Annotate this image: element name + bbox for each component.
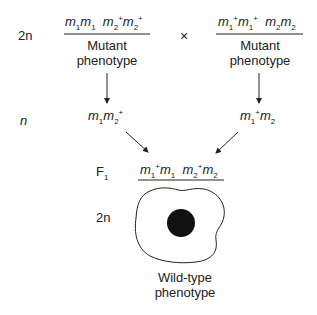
diagram-graphics: [0, 0, 317, 315]
nucleus: [167, 209, 195, 237]
arrow-left-gamete-to-f1: [126, 132, 148, 152]
arrow-right-gamete-to-f1: [216, 132, 238, 153]
